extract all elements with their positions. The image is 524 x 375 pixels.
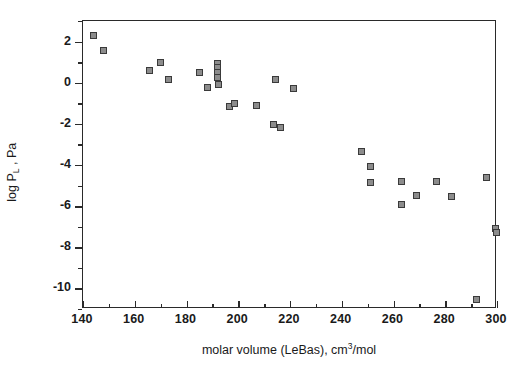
y-tick-label: 2 xyxy=(64,34,71,48)
y-tick-label: -8 xyxy=(60,239,71,253)
scatter-chart-figure: 140160180200220240260280300 20-2-4-6-8-1… xyxy=(0,0,524,375)
x-axis-title-post: /mol xyxy=(352,343,376,357)
x-axis-title-pre: molar volume (LeBas), cm xyxy=(202,343,348,357)
y-tick-label: -6 xyxy=(60,198,71,212)
y-tick-label: 0 xyxy=(64,75,71,89)
y-tick-label: -10 xyxy=(53,280,71,294)
y-axis-title: log PL , Pa xyxy=(5,97,22,247)
y-tick-label: -2 xyxy=(60,116,71,130)
y-axis-tick-labels: 20-2-4-6-8-10 xyxy=(0,0,524,375)
y-axis-title-pre: log P xyxy=(5,173,19,202)
y-tick-label: -4 xyxy=(60,157,71,171)
x-axis-title: molar volume (LeBas), cm3/mol xyxy=(202,341,376,357)
y-axis-title-subscript: L xyxy=(11,169,21,174)
y-axis-title-post: , Pa xyxy=(5,143,19,169)
